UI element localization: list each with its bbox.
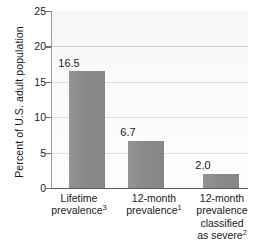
x-axis-label-lifetime-prevalence: Lifetime prevalence3	[41, 192, 117, 217]
y-tick-label-10: 10	[20, 112, 46, 122]
bar-12-month-severe	[203, 174, 239, 188]
x-label-line-1: 12-month	[185, 192, 259, 204]
y-tick-label-20: 20	[20, 41, 46, 51]
bar-chart: Percent of U.S. adult population 25 20 1…	[0, 0, 259, 252]
x-label-footnote: 2	[243, 228, 247, 237]
x-axis-label-12-month-prevalence: 12-month prevalence1	[116, 192, 192, 217]
x-label-text: prevalence	[126, 204, 177, 216]
gridline-20	[52, 46, 248, 47]
x-label-line-2: prevalence1	[116, 204, 192, 216]
x-label-line-3: classified	[185, 217, 259, 229]
bar-value-12-month-prevalence: 6.7	[110, 126, 146, 138]
x-label-text: prevalence	[51, 204, 102, 216]
x-label-line-2: prevalence3	[41, 204, 117, 216]
y-axis-title: Percent of U.S. adult population	[13, 12, 25, 192]
y-tick-label-5: 5	[20, 148, 46, 158]
x-label-footnote: 1	[178, 203, 182, 212]
bar-value-12-month-severe: 2.0	[185, 159, 221, 171]
x-label-line-2: prevalence	[185, 204, 259, 216]
x-axis-label-12-month-severe: 12-month prevalence classified as severe…	[185, 192, 259, 242]
x-label-footnote: 3	[103, 203, 107, 212]
x-label-line-4: as severe2	[185, 229, 259, 241]
x-label-text: as severe	[197, 229, 243, 241]
bar-value-lifetime-prevalence: 16.5	[51, 57, 87, 69]
y-tick-label-25: 25	[20, 6, 46, 16]
bar-12-month-prevalence	[128, 141, 164, 188]
y-tick-label-15: 15	[20, 77, 46, 87]
bar-lifetime-prevalence	[69, 71, 105, 188]
